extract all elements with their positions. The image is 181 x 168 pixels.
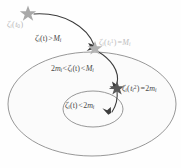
above-threshold-label: ζi(t)>Mi: [35, 35, 61, 44]
first-threshold-label: ζi(ti1)=Mi: [99, 39, 130, 48]
initial-state-star-icon: [20, 6, 36, 21]
second-threshold-label: ζi(ti2)=2mi: [122, 85, 156, 94]
below-threshold-label: ζi(t)<2mi: [65, 102, 94, 111]
above-threshold-M-sub: i: [60, 37, 61, 43]
first-threshold-M: M: [122, 38, 129, 47]
initial-condition-close-paren: ): [20, 20, 24, 29]
first-threshold-M-sub: i: [129, 41, 130, 47]
below-threshold-arg: (t): [70, 101, 78, 110]
above-threshold-arg: (t): [40, 34, 48, 43]
between-thresholds-label: 2mi<ζi(t)<Mi: [51, 65, 94, 74]
second-threshold-m-sub: i: [155, 87, 156, 93]
below-threshold-m-sub: i: [93, 104, 94, 110]
figure-container: ζi(t0) ζi(t)>Mi ζi(ti1)=Mi 2mi<ζi(t)<Mi …: [0, 0, 181, 168]
between-M-sub: i: [92, 67, 93, 73]
initial-condition-label: ζi(t0): [7, 21, 23, 30]
above-threshold-M: M: [53, 34, 60, 43]
